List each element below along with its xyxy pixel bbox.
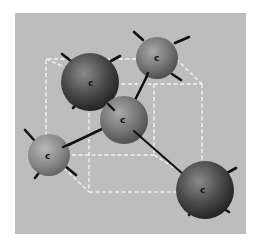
atom-label: c — [200, 185, 205, 195]
atom-bottom-right-large: c — [176, 161, 234, 219]
cube-depth-edge-tl — [46, 59, 62, 66]
bond-center-bottomright — [135, 132, 183, 174]
atom-top-right: c — [136, 37, 178, 79]
atom-label: c — [88, 78, 93, 88]
cube-depth-edge-bl — [64, 168, 89, 192]
atom-left: c — [28, 134, 70, 176]
atom-label: c — [45, 151, 50, 161]
diamond-lattice-diagram: c c c c c — [0, 0, 260, 245]
atom-label: c — [120, 115, 125, 125]
atom-label: c — [154, 53, 159, 63]
